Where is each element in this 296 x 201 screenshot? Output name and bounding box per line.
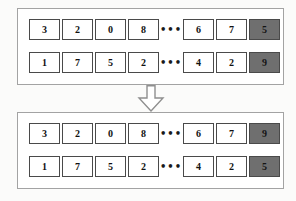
array-cell: 2: [128, 156, 159, 177]
array-panel-after: 3 2 0 8 ••• 6 7 9 1 7 5 2 ••• 4 2 5: [17, 112, 284, 189]
array-row: 1 7 5 2 ••• 4 2 5: [29, 156, 280, 177]
highlight-cell: 5: [249, 156, 280, 177]
array-cell: 0: [95, 123, 126, 144]
array-cell: 4: [183, 52, 214, 73]
array-cell: 3: [29, 19, 60, 40]
array-cell: 7: [62, 156, 93, 177]
array-row: 3 2 0 8 ••• 6 7 5: [29, 19, 280, 40]
array-cell: 7: [216, 123, 247, 144]
transition-arrow: [17, 85, 284, 112]
array-cell: 8: [128, 123, 159, 144]
array-cell: 2: [128, 52, 159, 73]
ellipsis: •••: [161, 156, 181, 177]
array-cell: 1: [29, 52, 60, 73]
array-cell: 4: [183, 156, 214, 177]
array-row: 3 2 0 8 ••• 6 7 9: [29, 123, 280, 144]
highlight-cell: 9: [249, 123, 280, 144]
swap-figure: 3 2 0 8 ••• 6 7 5 1 7 5 2 ••• 4 2 9 3 2: [0, 0, 296, 201]
array-panel-before: 3 2 0 8 ••• 6 7 5 1 7 5 2 ••• 4 2 9: [17, 8, 284, 85]
array-cell: 6: [183, 123, 214, 144]
array-cell: 1: [29, 156, 60, 177]
array-cell: 3: [29, 123, 60, 144]
array-cell: 5: [95, 52, 126, 73]
array-cell: 2: [62, 19, 93, 40]
array-cell: 0: [95, 19, 126, 40]
highlight-cell: 5: [249, 19, 280, 40]
array-cell: 6: [183, 19, 214, 40]
down-arrow-icon: [134, 85, 168, 112]
array-cell: 5: [95, 156, 126, 177]
ellipsis: •••: [161, 52, 181, 73]
array-row: 1 7 5 2 ••• 4 2 9: [29, 52, 280, 73]
array-cell: 7: [216, 19, 247, 40]
array-cell: 2: [62, 123, 93, 144]
ellipsis: •••: [161, 19, 181, 40]
array-cell: 8: [128, 19, 159, 40]
array-cell: 2: [216, 52, 247, 73]
ellipsis: •••: [161, 123, 181, 144]
highlight-cell: 9: [249, 52, 280, 73]
array-cell: 2: [216, 156, 247, 177]
array-cell: 7: [62, 52, 93, 73]
